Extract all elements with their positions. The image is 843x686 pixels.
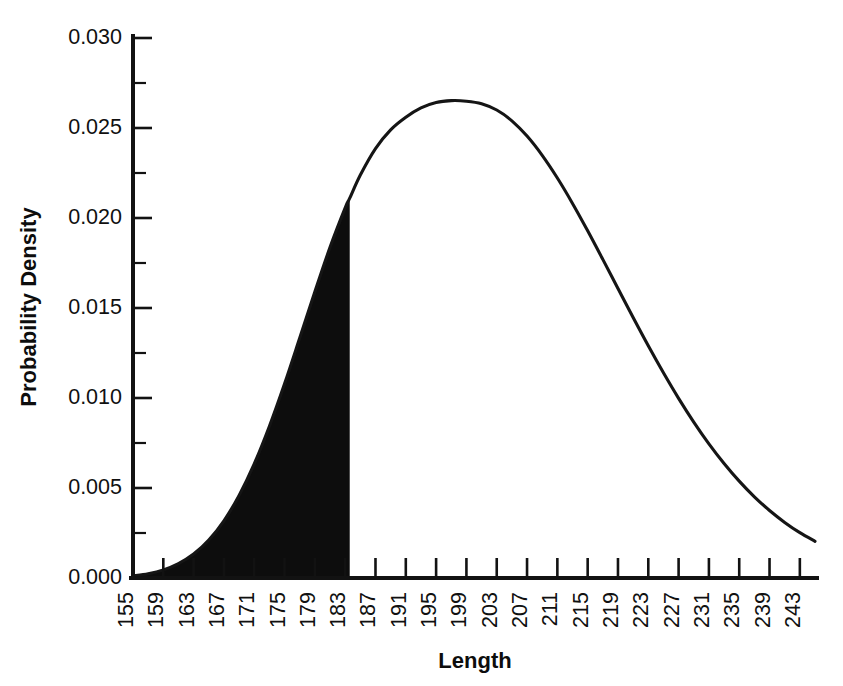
chart-canvas: 0.0000.0050.0100.0150.0200.0250.030 1551…	[0, 0, 843, 686]
x-tick-label: 171	[235, 592, 259, 628]
x-tick-label: 195	[417, 592, 441, 628]
x-axis-tick-labels: 1551591631671711751791831871911951992032…	[114, 592, 805, 628]
x-tick-label: 203	[478, 592, 502, 628]
y-tick-label: 0.030	[68, 25, 122, 49]
y-tick-label: 0.025	[68, 115, 122, 139]
x-tick-label: 211	[538, 592, 562, 626]
x-tick-label: 159	[144, 592, 168, 628]
x-tick-label: 219	[599, 592, 623, 628]
y-axis-title: Probability Density	[16, 207, 41, 407]
x-tick-label: 179	[296, 592, 320, 628]
x-tick-label: 207	[508, 592, 532, 628]
y-tick-label: 0.020	[68, 205, 122, 229]
x-tick-label: 191	[387, 592, 411, 628]
x-tick-label: 187	[356, 592, 380, 628]
x-axis-title: Length	[438, 648, 511, 673]
x-tick-label: 227	[660, 592, 684, 628]
x-tick-label: 231	[690, 592, 714, 628]
y-tick-label: 0.015	[68, 295, 122, 319]
x-tick-label: 155	[114, 592, 138, 628]
x-tick-label: 215	[569, 592, 593, 628]
y-tick-label: 0.000	[68, 565, 122, 589]
x-tick-label: 175	[266, 592, 290, 628]
x-tick-label: 243	[781, 592, 805, 628]
x-tick-label: 163	[175, 592, 199, 628]
probability-density-chart: 0.0000.0050.0100.0150.0200.0250.030 1551…	[0, 0, 843, 686]
y-tick-label: 0.010	[68, 385, 122, 409]
x-tick-label: 167	[205, 592, 229, 628]
chart-background	[0, 0, 843, 686]
x-tick-label: 183	[326, 592, 350, 628]
x-tick-label: 199	[447, 592, 471, 628]
x-tick-label: 223	[629, 592, 653, 628]
x-tick-label: 239	[751, 592, 775, 628]
x-tick-label: 235	[720, 592, 744, 628]
y-tick-label: 0.005	[68, 475, 122, 499]
